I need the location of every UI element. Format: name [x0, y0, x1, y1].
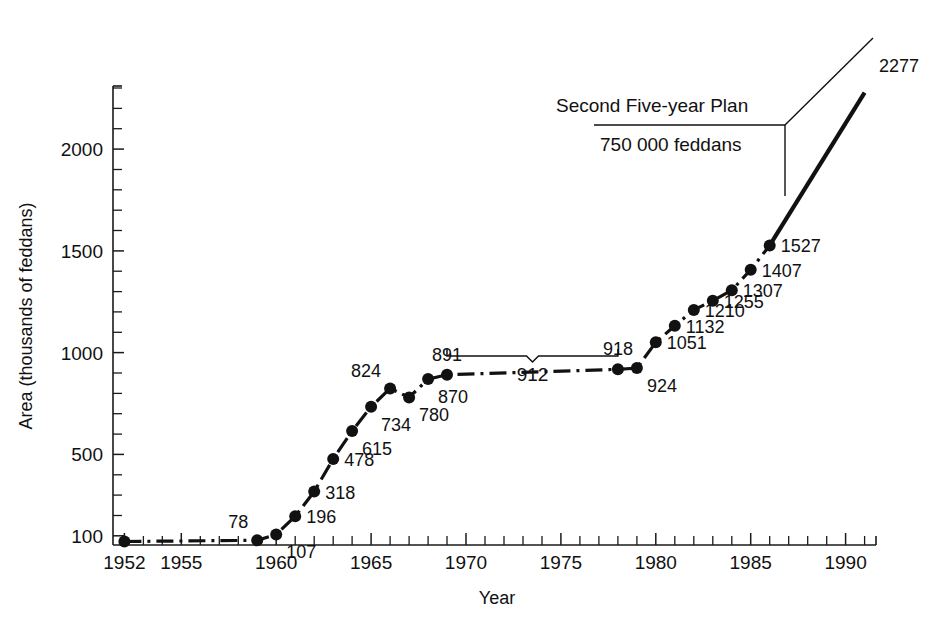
- x-tick-label: 1952: [103, 552, 145, 573]
- y-axis-tick-labels: 100500100015002000: [61, 139, 103, 547]
- data-point: [745, 264, 757, 276]
- x-tick-label: 1980: [635, 552, 677, 573]
- data-point-label: 1527: [781, 236, 821, 256]
- data-point: [270, 528, 282, 540]
- data-point-label: 824: [351, 361, 381, 381]
- data-point: [346, 425, 358, 437]
- data-point: [669, 320, 681, 332]
- y-tick-label: 500: [71, 444, 103, 465]
- plateau-brace-label: 912: [517, 364, 549, 385]
- plateau-brace-annotation: 912: [447, 349, 618, 385]
- data-point-label: 78: [228, 512, 248, 532]
- data-point: [118, 536, 130, 548]
- data-point-label: 734: [381, 415, 411, 435]
- data-point-label: 318: [325, 483, 355, 503]
- data-point: [441, 369, 453, 381]
- y-axis-title: Area (thousands of feddans): [16, 202, 36, 429]
- data-point: [251, 534, 263, 546]
- projection-value-label: 2277: [879, 56, 919, 76]
- data-point: [612, 363, 624, 375]
- second-plan-callout: Second Five-year Plan 750 000 feddans: [556, 38, 873, 196]
- data-point-label: 780: [419, 405, 449, 425]
- x-tick-label: 1990: [824, 552, 866, 573]
- x-tick-label: 1970: [445, 552, 487, 573]
- y-tick-label: 2000: [61, 139, 103, 160]
- data-point: [631, 362, 643, 374]
- x-tick-label: 1965: [350, 552, 392, 573]
- y-tick-label: 100: [71, 526, 103, 547]
- callout-title: Second Five-year Plan: [556, 95, 748, 116]
- data-point: [403, 391, 415, 403]
- data-point-label: 924: [647, 376, 677, 396]
- data-point: [688, 304, 700, 316]
- data-point-label: 1407: [762, 261, 802, 281]
- y-axis-ticks: [113, 88, 124, 536]
- x-tick-label: 1985: [730, 552, 772, 573]
- x-axis-tick-labels: 195219551960196519701975198019851990: [103, 552, 866, 573]
- y-tick-label: 1000: [61, 343, 103, 364]
- x-tick-label: 1975: [540, 552, 582, 573]
- callout-leader-diagonal: [785, 38, 873, 125]
- data-point: [384, 383, 396, 395]
- data-point-label: 196: [306, 507, 336, 527]
- projection-line-to-2277: [770, 93, 865, 246]
- data-point: [422, 373, 434, 385]
- plateau-brace-icon: [447, 349, 618, 362]
- y-tick-label: 1500: [61, 241, 103, 262]
- x-tick-label: 1955: [160, 552, 202, 573]
- data-point-label: 1307: [743, 281, 783, 301]
- chart-page: 100500100015002000 195219551960196519701…: [0, 0, 932, 621]
- data-point-label: 870: [438, 387, 468, 407]
- projection-annotation: 2277: [770, 56, 919, 245]
- data-point: [365, 401, 377, 413]
- data-point: [650, 336, 662, 348]
- callout-subtitle: 750 000 feddans: [600, 134, 742, 155]
- data-point-label: 107: [286, 542, 316, 562]
- axis-lines: [113, 86, 876, 545]
- data-point: [308, 486, 320, 498]
- data-point: [289, 510, 301, 522]
- x-axis-title: Year: [479, 588, 515, 608]
- data-point-label: 615: [362, 439, 392, 459]
- area-under-cultivation-line-chart: 100500100015002000 195219551960196519701…: [0, 0, 932, 621]
- data-point: [327, 453, 339, 465]
